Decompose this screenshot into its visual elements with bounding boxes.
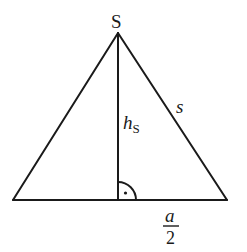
left-side-edge bbox=[13, 33, 118, 200]
right-side-edge bbox=[118, 33, 227, 200]
right-angle-arc bbox=[118, 182, 136, 200]
height-label: hS bbox=[123, 112, 140, 136]
side-label: s bbox=[176, 96, 183, 117]
height-label-main: h bbox=[123, 112, 133, 133]
half-base-denominator: 2 bbox=[166, 228, 175, 248]
triangle-diagram: S hS s a 2 bbox=[0, 0, 247, 252]
height-label-subscript: S bbox=[133, 121, 140, 136]
half-base-numerator: a bbox=[165, 205, 175, 226]
apex-label: S bbox=[111, 11, 122, 32]
right-angle-dot bbox=[124, 191, 127, 194]
